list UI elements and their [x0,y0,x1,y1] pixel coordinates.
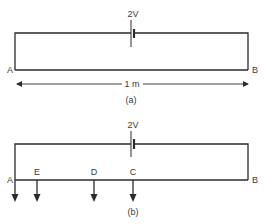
circuit-figure: 2V A B 1 m (a) 2V A B E [0,0,265,224]
diagram-a: 2V A B 1 m (a) [7,9,258,105]
point-d-label: D [91,167,98,177]
length-label: 1 m [124,79,139,89]
point-e-label: E [34,167,40,177]
battery-voltage-label-a: 2V [127,9,138,19]
battery-voltage-label-b: 2V [127,120,138,130]
battery-icon-a [131,20,134,47]
caption-a: (a) [126,95,137,105]
probe-arrow-c [130,180,137,202]
diagram-b: 2V A B E D C (b) [7,120,258,217]
caption-b: (b) [128,207,139,217]
wire-top-left-b [15,144,131,180]
wire-top-right-a [135,33,248,70]
terminal-b-label-b: B [252,175,258,185]
wire-top-left-a [15,33,131,70]
probe-arrow-e [34,180,41,202]
terminal-b-label: B [252,65,258,75]
terminal-a-label-b: A [7,175,13,185]
probe-arrow-d [91,180,98,202]
battery-icon-b [131,131,134,157]
wire-top-right-b [135,144,248,180]
point-c-label: C [130,167,137,177]
terminal-a-label: A [7,65,13,75]
